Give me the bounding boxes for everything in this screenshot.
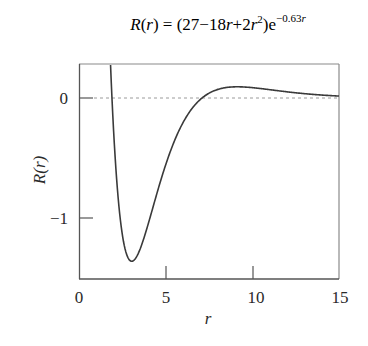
y-tick-label: −1 bbox=[50, 209, 68, 228]
chart-title: R(r) = (27−18r+2r2)e−0.63r bbox=[129, 12, 306, 34]
chart-canvas: R(r) = (27−18r+2r2)e−0.63r 0 −1 0 5 10 1… bbox=[0, 0, 368, 346]
x-tick-label: 5 bbox=[162, 288, 171, 307]
x-tick-label: 0 bbox=[75, 288, 84, 307]
y-axis-label: R(r) bbox=[30, 156, 49, 186]
x-axis-label: r bbox=[205, 309, 212, 328]
x-tick-label: 10 bbox=[248, 288, 265, 307]
data-series-line bbox=[111, 65, 339, 261]
x-tick-label: 15 bbox=[332, 288, 349, 307]
y-tick-label: 0 bbox=[60, 89, 69, 108]
